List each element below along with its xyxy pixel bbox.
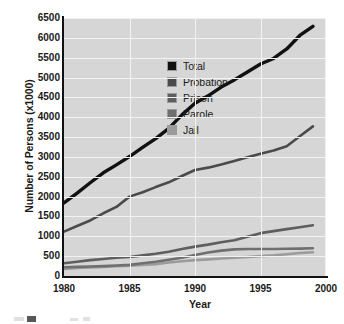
- legend-item-jail[interactable]: Jail: [167, 122, 253, 137]
- y-axis-tick-label: 4500: [26, 92, 60, 102]
- y-axis-tick-label: 1000: [26, 231, 60, 241]
- y-axis-tick-label: 3000: [26, 152, 60, 162]
- x-axis-tick-label: 1995: [237, 283, 285, 294]
- legend-item-parole[interactable]: Parole: [167, 106, 253, 121]
- scan-artifact-4: [83, 317, 90, 321]
- y-axis-tick-label: 0: [26, 271, 60, 281]
- gridline-vertical: [195, 18, 196, 276]
- x-axis-tick-label: 1990: [171, 283, 219, 294]
- x-axis-tick-label: 1980: [40, 283, 88, 294]
- y-axis-tick-label: 4000: [26, 112, 60, 122]
- y-axis-tick-label: 5000: [26, 73, 60, 83]
- y-axis-tick-label: 1500: [26, 211, 60, 221]
- x-axis-tick-label: 2000: [302, 283, 344, 294]
- gridline-vertical: [325, 18, 326, 276]
- gridline-vertical: [130, 18, 131, 276]
- x-axis-tick-label: 1985: [106, 283, 154, 294]
- y-axis-tick-label: 500: [26, 251, 60, 261]
- y-axis-tick-label: 2500: [26, 172, 60, 182]
- legend-swatch-icon: [167, 125, 177, 135]
- legend-swatch-icon: [167, 61, 177, 71]
- scan-artifact-2: [27, 316, 36, 322]
- gridline-vertical: [261, 18, 262, 276]
- y-axis-tick-label: 6000: [26, 33, 60, 43]
- scan-artifact-1: [14, 317, 24, 321]
- y-axis-tick-label: 6500: [26, 13, 60, 23]
- scan-artifact-3: [70, 318, 78, 321]
- plot-area: TotalProbationPrisonParoleJail: [64, 18, 326, 276]
- legend-item-probation[interactable]: Probation: [167, 74, 253, 89]
- series-line-parole: [64, 248, 313, 267]
- x-axis-line: [62, 276, 328, 278]
- y-axis-tick-label: 3500: [26, 132, 60, 142]
- legend-item-label: Jail: [183, 124, 199, 136]
- y-axis-tick-label: 2000: [26, 192, 60, 202]
- x-axis-title: Year: [60, 298, 340, 310]
- y-axis-tick-label: 5500: [26, 53, 60, 63]
- line-chart-figure: Number of Persons (x1000) 65006000550050…: [0, 0, 344, 324]
- y-axis-tick-labels: 6500600055005000450040003500300025002000…: [24, 0, 60, 324]
- legend-item-total[interactable]: Total: [167, 58, 253, 73]
